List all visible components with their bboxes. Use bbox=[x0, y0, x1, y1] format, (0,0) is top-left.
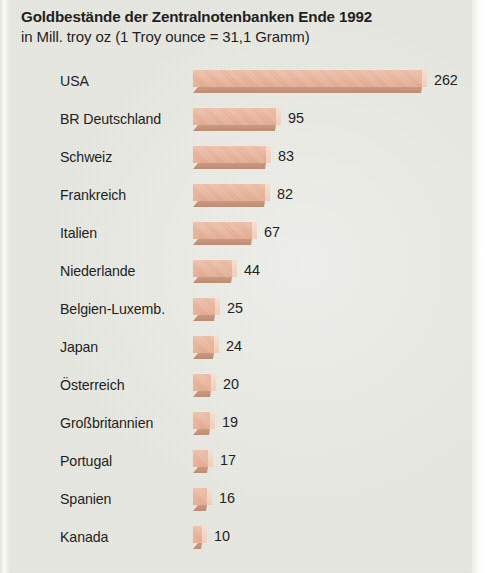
bar-face bbox=[193, 450, 208, 467]
bar-highlight-edge bbox=[211, 374, 216, 391]
bar-shadow bbox=[193, 163, 266, 169]
bar-value-label: 24 bbox=[226, 328, 242, 366]
bar-face bbox=[193, 374, 211, 391]
bar-highlight-edge bbox=[266, 146, 271, 163]
category-label: Großbritannien bbox=[60, 404, 153, 442]
category-label: Spanien bbox=[60, 480, 111, 518]
bar-value-label: 16 bbox=[219, 480, 235, 518]
chart-row: Japan24 bbox=[0, 328, 489, 366]
bar-highlight-edge bbox=[422, 70, 427, 87]
category-label: Frankreich bbox=[60, 176, 126, 214]
bar-shadow bbox=[193, 87, 422, 93]
bar-shadow bbox=[193, 315, 215, 321]
bar bbox=[193, 412, 210, 434]
bar-shadow bbox=[193, 429, 210, 435]
bar-face bbox=[193, 526, 202, 543]
bar-value-label: 95 bbox=[288, 100, 304, 138]
chart-row: Frankreich82 bbox=[0, 176, 489, 214]
chart-row: Portugal17 bbox=[0, 442, 489, 480]
bar-shadow bbox=[193, 125, 276, 131]
chart-content: Goldbestände der Zentralnotenbanken Ende… bbox=[0, 0, 489, 573]
chart-title: Goldbestände der Zentralnotenbanken Ende… bbox=[21, 7, 461, 27]
chart-row: Belgien-Luxemb.25 bbox=[0, 290, 489, 328]
bar-value-label: 10 bbox=[214, 518, 230, 556]
bar-face bbox=[193, 336, 214, 353]
bar-value-label: 17 bbox=[220, 442, 236, 480]
bar-shadow bbox=[193, 467, 208, 473]
bar-highlight-edge bbox=[215, 298, 220, 315]
category-label: Österreich bbox=[60, 366, 124, 404]
bar-highlight-edge bbox=[265, 184, 270, 201]
bar-face bbox=[193, 108, 276, 125]
bar-highlight-edge bbox=[202, 526, 207, 543]
category-label: USA bbox=[60, 62, 89, 100]
chart-row: Niederlande44 bbox=[0, 252, 489, 290]
bar-face bbox=[193, 146, 266, 163]
bar bbox=[193, 374, 211, 396]
bar bbox=[193, 526, 202, 548]
bar-highlight-edge bbox=[214, 336, 219, 353]
bar-highlight-edge bbox=[252, 222, 257, 239]
chart-row: Schweiz83 bbox=[0, 138, 489, 176]
bar-value-label: 262 bbox=[434, 62, 458, 100]
bar bbox=[193, 336, 214, 358]
bar bbox=[193, 146, 266, 168]
chart-row: USA262 bbox=[0, 62, 489, 100]
category-label: BR Deutschland bbox=[60, 100, 161, 138]
bar-shadow bbox=[193, 239, 252, 245]
bar-face bbox=[193, 260, 232, 277]
bar bbox=[193, 298, 215, 320]
category-label: Italien bbox=[60, 214, 97, 252]
bar-face bbox=[193, 488, 207, 505]
bar bbox=[193, 184, 265, 206]
chart-row: Großbritannien19 bbox=[0, 404, 489, 442]
bar-value-label: 67 bbox=[264, 214, 280, 252]
bar-highlight-edge bbox=[210, 412, 215, 429]
bar bbox=[193, 260, 232, 282]
bar bbox=[193, 222, 252, 244]
bar bbox=[193, 450, 208, 472]
bar bbox=[193, 488, 207, 510]
chart-subtitle: in Mill. troy oz (1 Troy ounce = 31,1 Gr… bbox=[21, 27, 461, 47]
category-label: Belgien-Luxemb. bbox=[60, 290, 165, 328]
chart-row: Kanada10 bbox=[0, 518, 489, 556]
bar-face bbox=[193, 298, 215, 315]
bar-shadow bbox=[193, 353, 214, 359]
bar bbox=[193, 70, 422, 92]
bar-value-label: 19 bbox=[222, 404, 238, 442]
bar-face bbox=[193, 412, 210, 429]
bar-shadow bbox=[193, 543, 202, 549]
bar-value-label: 82 bbox=[277, 176, 293, 214]
chart-row: Italien67 bbox=[0, 214, 489, 252]
bar bbox=[193, 108, 276, 130]
bar-value-label: 25 bbox=[227, 290, 243, 328]
bar-value-label: 83 bbox=[278, 138, 294, 176]
bar-highlight-edge bbox=[207, 488, 212, 505]
bar-face bbox=[193, 222, 252, 239]
bar-highlight-edge bbox=[208, 450, 213, 467]
bar-chart-plot: USA262BR Deutschland95Schweiz83Frankreic… bbox=[0, 62, 489, 556]
bar-value-label: 20 bbox=[223, 366, 239, 404]
bar-shadow bbox=[193, 505, 207, 511]
chart-row: Österreich20 bbox=[0, 366, 489, 404]
category-label: Kanada bbox=[60, 518, 108, 556]
bar-face bbox=[193, 70, 422, 87]
chart-row: Spanien16 bbox=[0, 480, 489, 518]
chart-title-block: Goldbestände der Zentralnotenbanken Ende… bbox=[21, 7, 461, 47]
bar-highlight-edge bbox=[232, 260, 237, 277]
bar-shadow bbox=[193, 201, 265, 207]
category-label: Portugal bbox=[60, 442, 112, 480]
chart-page: Goldbestände der Zentralnotenbanken Ende… bbox=[0, 0, 489, 573]
category-label: Japan bbox=[60, 328, 98, 366]
bar-highlight-edge bbox=[276, 108, 281, 125]
category-label: Niederlande bbox=[60, 252, 135, 290]
bar-shadow bbox=[193, 391, 211, 397]
bar-face bbox=[193, 184, 265, 201]
chart-row: BR Deutschland95 bbox=[0, 100, 489, 138]
bar-shadow bbox=[193, 277, 232, 283]
category-label: Schweiz bbox=[60, 138, 112, 176]
bar-value-label: 44 bbox=[244, 252, 260, 290]
